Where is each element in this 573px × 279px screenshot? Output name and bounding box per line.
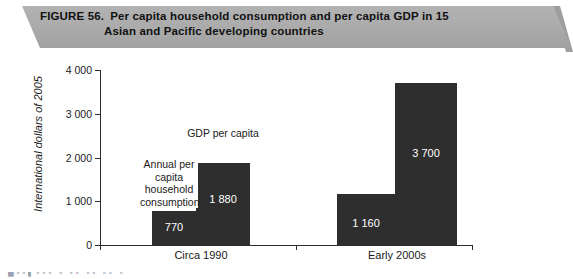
x-group-label-circa1990: Circa 1990 (141, 249, 261, 261)
y-tick-1000 (95, 201, 100, 202)
y-tick-label-0: 0 (48, 240, 92, 250)
y-tick-2000 (95, 158, 100, 159)
figure-number: FIGURE 56. (40, 10, 104, 22)
x-group-label-early2000s: Early 2000s (337, 249, 457, 261)
bar-value-early2000s-gdp: 3 700 (395, 147, 457, 159)
y-axis-line (100, 70, 101, 246)
figure-title-banner: FIGURE 56.Per capita household consumpti… (0, 6, 573, 54)
bottom-cropped-text: █‖‖▌‖‖‖ ‖ ‖‖ ‖‖ ‖‖ ‖ (8, 272, 125, 276)
banner-text-block: FIGURE 56.Per capita household consumpti… (40, 9, 540, 39)
bar-value-circa1990-consumption: 770 (152, 221, 196, 233)
bar-value-circa1990-gdp: 1 880 (196, 193, 250, 205)
x-axis-line (100, 245, 473, 246)
figure-title-line-2: Asian and Pacific developing countries (104, 24, 540, 39)
y-tick-label-2000: 2 000 (48, 153, 92, 163)
x-tick-middle (296, 245, 297, 250)
y-tick-label-4000: 4 000 (48, 65, 92, 75)
bar-value-early2000s-consumption: 1 160 (337, 217, 395, 229)
y-tick-4000 (95, 70, 100, 71)
y-tick-label-3000: 3 000 (48, 109, 92, 119)
bottom-cropped-text-row: █‖‖▌‖‖‖ ‖ ‖‖ ‖‖ ‖‖ ‖ (0, 272, 573, 279)
y-tick-label-1000: 1 000 (48, 196, 92, 206)
chart-plot-area: International dollars of 2005 0 1 000 2 … (0, 54, 573, 279)
bar-early2000s-gdp[interactable] (395, 83, 457, 245)
x-tick-end (472, 245, 473, 250)
figure-title-line-1: Per capita household consumption and per… (110, 10, 449, 22)
annotation-gdp: GDP per capita (186, 127, 260, 140)
x-tick-start (100, 245, 101, 250)
y-tick-3000 (95, 114, 100, 115)
annotation-consumption: Annual per capita household consumption (140, 158, 198, 208)
